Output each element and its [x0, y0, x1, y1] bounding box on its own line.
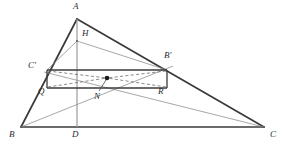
geometry-canvas [0, 0, 285, 149]
triangle-abc [21, 19, 264, 127]
vertex-ticks [76, 40, 78, 42]
point-h-dot [76, 40, 78, 42]
label-point-n: N [94, 92, 100, 101]
side-ac-line [77, 19, 264, 127]
label-point-h: H [82, 29, 89, 38]
label-point-a: A [73, 2, 79, 11]
point-n-dot [105, 76, 110, 81]
label-point-b: B [9, 130, 15, 139]
label-point-b-prime: B' [164, 51, 171, 60]
construction-lines [21, 41, 264, 127]
geometry-figure: A B C D H C' B' Q R N [0, 0, 285, 149]
label-point-c: C [270, 130, 276, 139]
label-point-r: R [158, 87, 164, 96]
label-point-d: D [72, 130, 79, 139]
line-h-to-cprime [47, 41, 77, 70]
label-point-c-prime: C' [28, 61, 36, 70]
label-point-q: Q [38, 87, 45, 96]
leader-line-n [99, 80, 106, 91]
